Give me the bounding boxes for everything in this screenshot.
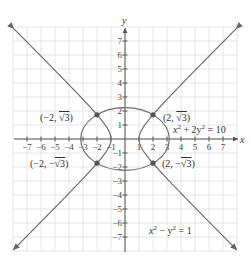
x-tick-label: 5 (193, 142, 198, 152)
y-tick-label: −5 (112, 204, 122, 214)
y-tick-label: 4 (118, 78, 123, 88)
point-top-left (94, 112, 99, 117)
ellipse-equation-label: x2 + 2y2 = 10 (172, 123, 226, 135)
x-tick-label: 7 (221, 142, 226, 152)
y-tick-label: −6 (112, 218, 122, 228)
y-tick-label: −7 (112, 232, 122, 242)
y-tick-label: 7 (118, 36, 123, 46)
y-tick-label: −4 (112, 190, 122, 200)
hyperbola-equation-label: x2 − y2 = 1 (148, 224, 192, 236)
y-tick-label: 5 (118, 64, 123, 74)
x-tick-label: 4 (179, 142, 184, 152)
label-point-bottom-right: (2, −√3) (162, 158, 195, 170)
x-tick-label: −2 (92, 142, 102, 152)
point-top-right (150, 112, 155, 117)
y-tick-label: −1 (112, 148, 122, 158)
x-tick-label: −6 (36, 142, 46, 152)
x-tick-label: 2 (151, 142, 156, 152)
y-tick-label: 3 (118, 92, 123, 102)
y-axis-label: y (121, 15, 127, 26)
x-tick-label: −7 (22, 142, 32, 152)
x-tick-label: −4 (64, 142, 74, 152)
y-tick-label: 6 (118, 50, 123, 60)
label-point-top-left: (−2, √3) (40, 112, 73, 124)
label-point-bottom-left: (−2, −√3) (30, 158, 68, 170)
x-tick-label: −5 (50, 142, 60, 152)
x-axis-label: x (239, 134, 245, 145)
y-tick-label: 1 (118, 120, 123, 130)
y-tick-label: −3 (112, 176, 122, 186)
point-bottom-left (94, 161, 99, 166)
chart: −7−6−5−4−3−2−112345677654321−1−2−3−4−5−6… (0, 0, 251, 261)
x-tick-label: 6 (207, 142, 212, 152)
point-bottom-right (150, 161, 155, 166)
